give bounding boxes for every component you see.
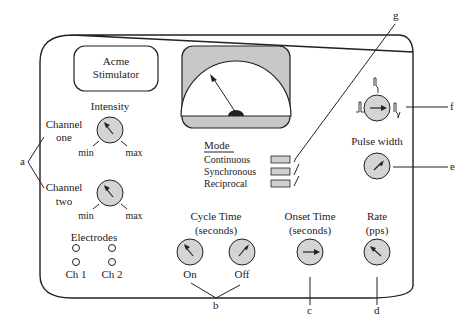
callout-g: g: [393, 10, 399, 21]
channel-two-max: max: [122, 210, 146, 222]
electrode-ch1-a[interactable]: [73, 245, 80, 252]
intensity-label: Intensity: [80, 100, 140, 112]
cycle-off-label: Off: [230, 268, 254, 280]
mode-switch-synchronous[interactable]: [271, 168, 290, 175]
channel-one-line-1: Channel: [44, 118, 84, 130]
mode-option-continuous: Continuous: [204, 154, 250, 166]
mode-switch-continuous[interactable]: [271, 156, 290, 163]
channel-two-line-1: Channel: [44, 181, 84, 193]
cycle-time-line-2: (seconds): [176, 224, 256, 236]
onset-time-line-2: (seconds): [280, 224, 340, 236]
callout-c: c: [307, 305, 312, 316]
callout-b: b: [213, 300, 219, 311]
callout-b-line: [191, 283, 240, 298]
waveform-biphasic-top-icon: [374, 78, 378, 93]
callout-e: e: [450, 161, 455, 172]
electrode-ch2-a[interactable]: [109, 245, 116, 252]
pulse-width-label: Pulse width: [347, 135, 407, 147]
callout-a: a: [20, 156, 25, 167]
knob-rate[interactable]: [364, 239, 390, 265]
title-line-2: Stimulator: [74, 68, 158, 80]
knob-intensity-one[interactable]: [93, 117, 127, 146]
knob-cycle-off[interactable]: [229, 239, 255, 265]
callout-d: d: [374, 305, 380, 316]
knob-onset-time[interactable]: [297, 239, 323, 265]
mode-switch-reciprocal[interactable]: [271, 180, 290, 187]
electrode-ch1-label: Ch 1: [62, 268, 90, 280]
knob-cycle-on[interactable]: [177, 239, 203, 265]
knob-pulse-width[interactable]: [364, 153, 390, 179]
title-line-1: Acme: [74, 55, 158, 67]
channel-one-line-2: one: [44, 131, 84, 143]
rate-line-2: (pps): [357, 224, 397, 236]
channel-one-min: min: [74, 147, 98, 159]
onset-time-line-1: Onset Time: [280, 210, 340, 222]
cycle-on-label: On: [178, 268, 202, 280]
cycle-time-line-1: Cycle Time: [176, 210, 256, 222]
knob-intensity-two[interactable]: [93, 180, 127, 209]
callout-f: f: [450, 101, 454, 112]
electrodes-label: Electrodes: [64, 231, 124, 243]
mode-label: Mode: [204, 139, 230, 151]
mode-option-synchronous: Synchronous: [204, 166, 256, 178]
electrode-ch2-label: Ch 2: [98, 268, 126, 280]
channel-one-max: max: [122, 147, 146, 159]
waveform-monophasic-icon: [356, 102, 364, 112]
waveform-biphasic-right-icon: [394, 103, 400, 118]
rate-line-1: Rate: [357, 210, 397, 222]
electrode-ch1-b[interactable]: [73, 259, 80, 266]
channel-two-line-2: two: [44, 195, 84, 207]
mode-option-reciprocal: Reciprocal: [204, 178, 247, 190]
electrode-ch2-b[interactable]: [109, 259, 116, 266]
knob-waveform[interactable]: [364, 95, 390, 121]
callout-a-line: [28, 137, 44, 188]
channel-two-min: min: [74, 210, 98, 222]
